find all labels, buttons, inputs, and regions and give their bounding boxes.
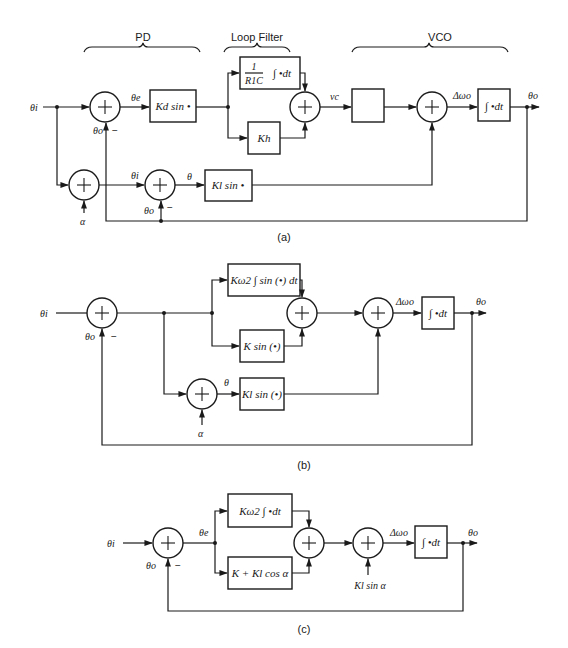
- block-kd-sin-label: Kd sin •: [154, 100, 190, 112]
- brace-vco: VCO: [352, 31, 508, 52]
- signal-theta: θ: [224, 377, 229, 388]
- signal-theta-e: θe: [199, 527, 209, 538]
- signal-delta-omega-o: Δωo: [389, 527, 408, 538]
- signal-delta-omega-o: Δωo: [395, 296, 414, 307]
- diagram-c: θi θo − θe Kω2 ∫ •dt K + Kl cos α: [107, 494, 478, 635]
- block-integrator-label: ∫ •dt: [484, 100, 504, 113]
- summing-junction-filter: [294, 528, 324, 558]
- signal-theta: θ: [187, 171, 192, 182]
- signal-theta-i: θi: [30, 102, 38, 113]
- block-integrator-label: ∫ •dt: [428, 307, 448, 320]
- block-k-omega-label: Kω2 ∫ •dt: [238, 505, 281, 518]
- diagram-a: PD Loop Filter VCO θi θo − θe Kd sin •: [30, 31, 539, 243]
- summing-junction-filter: [287, 298, 317, 328]
- block-kl-sin-label: Kl sin (•): [241, 388, 282, 401]
- signal-kl-sin-alpha: Kl sin α: [353, 580, 386, 591]
- block-k-omega-label: Kω2 ∫ sin (•) dt: [229, 274, 298, 287]
- section-label-vco: VCO: [428, 31, 452, 43]
- signal-theta-e: θe: [131, 92, 141, 103]
- summing-junction-phase-detector: [90, 92, 120, 122]
- summing-junction-lower: [145, 170, 175, 200]
- block-kl-sin-label: Kl sin •: [211, 179, 245, 191]
- block-vco-gain: [352, 89, 384, 122]
- caption-a: (a): [277, 231, 290, 243]
- minus-sign: −: [167, 202, 173, 213]
- summing-junction-vco: [363, 298, 393, 328]
- minus-sign: −: [111, 331, 117, 342]
- section-label-pd: PD: [135, 31, 150, 43]
- caption-b: (b): [297, 459, 310, 471]
- summing-junction-alpha: [187, 379, 217, 409]
- section-label-loop-filter: Loop Filter: [231, 31, 283, 43]
- pll-block-diagrams: PD Loop Filter VCO θi θo − θe Kd sin •: [0, 0, 568, 648]
- signal-theta-o-lower: θo: [144, 205, 154, 216]
- summing-junction-vco: [353, 528, 383, 558]
- summing-junction-vco: [417, 92, 447, 122]
- minus-sign: −: [175, 560, 181, 571]
- summing-junction-alpha: [69, 170, 99, 200]
- signal-theta-i: θi: [40, 308, 48, 319]
- signal-theta-o-output: θo: [468, 527, 478, 538]
- minus-sign: −: [112, 125, 118, 136]
- signal-theta-i: θi: [107, 538, 115, 549]
- fraction-numerator: 1: [252, 61, 257, 72]
- summing-junction-loop-filter: [290, 92, 320, 122]
- fraction-denominator: R1C: [244, 75, 263, 86]
- signal-theta-o-feedback: θo: [85, 331, 95, 342]
- block-kh-label: Kh: [257, 132, 271, 144]
- junction-dot: [159, 219, 163, 223]
- signal-theta-o-output: θo: [476, 296, 486, 307]
- signal-alpha: α: [80, 216, 86, 227]
- diagram-b: θi θo − Kω2 ∫ sin (•) dt K sin (•): [40, 264, 486, 471]
- signal-alpha: α: [198, 428, 204, 439]
- signal-theta-i-lower: θi: [131, 170, 139, 181]
- summing-junction-error: [87, 298, 117, 328]
- block-integrator-label: ∫ •dt: [421, 536, 441, 549]
- signal-theta-o-output: θo: [528, 90, 538, 101]
- signal-vc: vc: [330, 91, 339, 102]
- block-k-cos-label: K + Kl cos α: [231, 567, 289, 579]
- caption-c: (c): [298, 623, 311, 635]
- integral-expression: ∫ •dt: [272, 67, 292, 80]
- signal-delta-omega-o: Δωo: [452, 90, 471, 101]
- block-k-sin-label: K sin (•): [243, 340, 281, 353]
- brace-loop-filter: Loop Filter: [224, 31, 290, 52]
- signal-theta-o-feedback: θo: [93, 125, 103, 136]
- brace-pd: PD: [84, 31, 200, 52]
- signal-theta-o-feedback: θo: [146, 560, 156, 571]
- summing-junction-error: [153, 528, 183, 558]
